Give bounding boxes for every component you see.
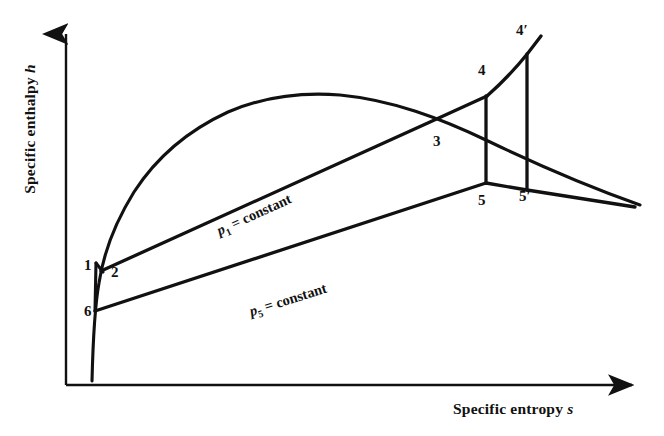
state-point-label-1: 1 [84, 257, 92, 274]
state-point-label-4: 4 [478, 62, 486, 79]
state-point-4-prime-text: 4′ [516, 22, 528, 38]
state-point-5-prime-text: 5′ [519, 188, 531, 204]
state-point-4-text: 4 [478, 62, 486, 78]
state-point-label-3: 3 [433, 133, 441, 150]
state-point-label-5-prime: 5′ [519, 188, 531, 205]
state-point-label-6: 6 [84, 303, 92, 320]
state-point-2-text: 2 [111, 264, 119, 280]
x-axis-symbol: s [567, 400, 573, 417]
process-line-6-to-1 [95, 263, 96, 311]
superheat-line-4-to-4prime [487, 36, 541, 96]
state-point-label-4-prime: 4′ [516, 22, 528, 39]
state-point-label-5: 5 [478, 192, 486, 209]
h-s-diagram-figure: Specific enthalpy h Specific entropy s p… [0, 0, 664, 436]
state-point-5-text: 5 [478, 192, 486, 208]
diagram-canvas [0, 0, 664, 436]
p5-constant-line [95, 183, 635, 311]
state-point-1-text: 1 [84, 257, 92, 273]
y-axis-symbol: h [21, 64, 38, 73]
y-axis-label-text: Specific enthalpy [21, 77, 38, 194]
x-axis-label-text: Specific entropy [453, 400, 563, 417]
state-point-3-text: 3 [433, 133, 441, 149]
state-point-label-2: 2 [111, 264, 119, 281]
y-axis-label: Specific enthalpy h [21, 39, 39, 219]
x-axis-label: Specific entropy s [453, 400, 573, 418]
state-point-6-text: 6 [84, 303, 92, 319]
